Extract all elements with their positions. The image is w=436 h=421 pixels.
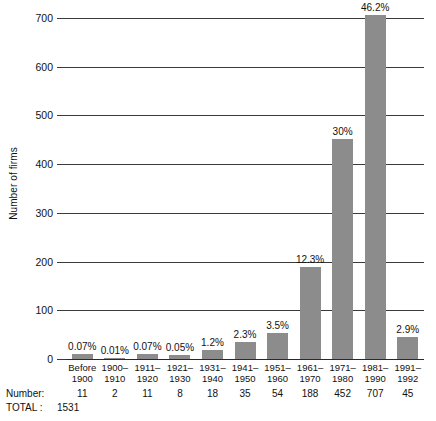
number-row-cell: 35 bbox=[239, 388, 250, 399]
x-tick-label-line: 1970 bbox=[297, 373, 323, 384]
x-tick-label: 1921–1930 bbox=[167, 362, 193, 384]
x-tick-label-line: 1940 bbox=[199, 373, 225, 384]
x-tick-label: 1961–1970 bbox=[297, 362, 323, 384]
bar[interactable] bbox=[300, 267, 321, 359]
total-value: 1531 bbox=[57, 402, 79, 413]
number-row-cell: 11 bbox=[77, 388, 87, 399]
x-tick-label-line: 1900– bbox=[102, 362, 128, 373]
x-tick-label: 1951–1960 bbox=[264, 362, 290, 384]
bar[interactable] bbox=[202, 350, 223, 359]
x-tick-label: 1900–1910 bbox=[102, 362, 128, 384]
y-tick-mark-100 bbox=[57, 310, 66, 311]
number-row-cell: 452 bbox=[334, 388, 351, 399]
number-row-cell: 188 bbox=[302, 388, 319, 399]
bar-value-label: 2.3% bbox=[234, 329, 257, 340]
y-tick-label-400: 400 bbox=[35, 158, 53, 170]
plot-area: 01002003004005006007000.07%0.01%0.07%0.0… bbox=[66, 18, 424, 359]
x-tick-label-line: 1960 bbox=[264, 373, 290, 384]
x-tick-label-line: 1950 bbox=[232, 373, 258, 384]
bar-chart: Number of firms 01002003004005006007000.… bbox=[0, 0, 436, 421]
number-row-cell: 2 bbox=[112, 388, 118, 399]
x-tick-label-line: 1930 bbox=[167, 373, 193, 384]
number-row-cell: 11 bbox=[142, 388, 152, 399]
x-tick-label-line: 1911– bbox=[135, 362, 161, 373]
total-row-label: TOTAL : bbox=[6, 402, 43, 413]
bar[interactable] bbox=[169, 355, 190, 359]
y-tick-label-100: 100 bbox=[35, 304, 53, 316]
x-tick-label-line: Before bbox=[68, 362, 96, 373]
bar-value-label: 0.07% bbox=[68, 341, 96, 352]
y-tick-mark-700 bbox=[57, 18, 66, 19]
x-tick-label: 1991–1992 bbox=[395, 362, 421, 384]
bar[interactable] bbox=[137, 354, 158, 359]
bar[interactable] bbox=[365, 15, 386, 359]
number-row-cell: 707 bbox=[367, 388, 384, 399]
y-tick-label-500: 500 bbox=[35, 109, 53, 121]
number-row-cell: 8 bbox=[177, 388, 183, 399]
bar-value-label: 3.5% bbox=[266, 320, 289, 331]
x-tick-label-line: 1910 bbox=[102, 373, 128, 384]
bar-value-label: 12.3% bbox=[296, 254, 324, 265]
number-row-cell: 54 bbox=[272, 388, 283, 399]
y-tick-mark-0 bbox=[57, 359, 66, 360]
x-tick-label-line: 1992 bbox=[395, 373, 421, 384]
y-axis-title: Number of firms bbox=[8, 124, 19, 244]
x-tick-label-line: 1931– bbox=[199, 362, 225, 373]
y-tick-mark-600 bbox=[57, 67, 66, 68]
x-tick-label: 1911–1920 bbox=[135, 362, 161, 384]
y-tick-mark-300 bbox=[57, 213, 66, 214]
x-tick-label: 1941–1950 bbox=[232, 362, 258, 384]
bar-value-label: 30% bbox=[333, 126, 353, 137]
number-row-label: Number: bbox=[6, 388, 44, 399]
x-tick-label-line: 1980 bbox=[329, 373, 355, 384]
axis-baseline bbox=[66, 359, 424, 360]
y-tick-mark-500 bbox=[57, 115, 66, 116]
x-tick-label-line: 1921– bbox=[167, 362, 193, 373]
y-tick-label-700: 700 bbox=[35, 12, 53, 24]
bar[interactable] bbox=[104, 358, 125, 359]
y-tick-label-600: 600 bbox=[35, 61, 53, 73]
x-tick-label: Before1900 bbox=[68, 362, 96, 384]
bar-value-label: 1.2% bbox=[201, 337, 224, 348]
x-tick-label: 1971–1980 bbox=[329, 362, 355, 384]
bar-value-label: 0.01% bbox=[101, 345, 129, 356]
bar-value-label: 46.2% bbox=[361, 2, 389, 13]
y-tick-label-300: 300 bbox=[35, 207, 53, 219]
y-tick-label-200: 200 bbox=[35, 256, 53, 268]
bar[interactable] bbox=[235, 342, 256, 359]
x-tick-label-line: 1981– bbox=[362, 362, 388, 373]
x-tick-label-line: 1991– bbox=[395, 362, 421, 373]
y-tick-mark-200 bbox=[57, 262, 66, 263]
bar[interactable] bbox=[267, 333, 288, 359]
x-tick-label-line: 1961– bbox=[297, 362, 323, 373]
number-row-cell: 18 bbox=[207, 388, 218, 399]
x-tick-label-line: 1920 bbox=[135, 373, 161, 384]
y-tick-mark-400 bbox=[57, 164, 66, 165]
bar[interactable] bbox=[72, 354, 93, 359]
bar[interactable] bbox=[332, 139, 353, 359]
x-tick-label-line: 1951– bbox=[264, 362, 290, 373]
x-tick-label-line: 1900 bbox=[68, 373, 96, 384]
number-row-cell: 45 bbox=[402, 388, 413, 399]
bar-value-label: 0.05% bbox=[166, 342, 194, 353]
y-tick-label-0: 0 bbox=[47, 353, 53, 365]
x-tick-label: 1931–1940 bbox=[199, 362, 225, 384]
bar-value-label: 0.07% bbox=[133, 341, 161, 352]
x-tick-label-line: 1941– bbox=[232, 362, 258, 373]
x-tick-label-line: 1971– bbox=[329, 362, 355, 373]
bar-value-label: 2.9% bbox=[396, 324, 419, 335]
x-tick-label: 1981–1990 bbox=[362, 362, 388, 384]
x-tick-label-line: 1990 bbox=[362, 373, 388, 384]
bar[interactable] bbox=[397, 337, 418, 359]
